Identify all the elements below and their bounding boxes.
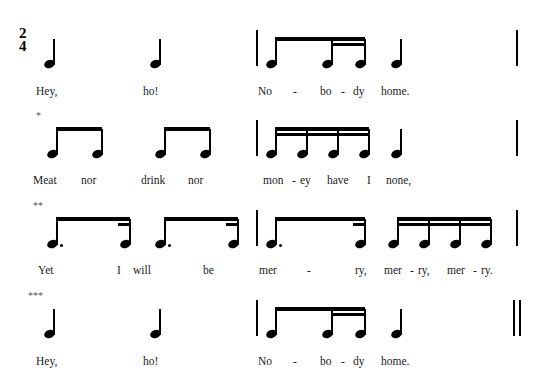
note-stem	[56, 219, 58, 245]
lyric-syllable: ho!	[143, 355, 158, 367]
beam-secondary-stub	[226, 223, 238, 226]
beam-primary	[275, 37, 365, 41]
note-stem	[275, 219, 277, 245]
sheet-music-page: 2 4 *	[0, 0, 551, 382]
time-signature: 2 4	[19, 27, 27, 53]
beam-secondary-stub	[353, 223, 365, 226]
lyric-syllable: Hey,	[36, 355, 57, 367]
barline-end	[516, 30, 518, 66]
lyric-syllable: dy	[353, 355, 365, 367]
lyric-syllable: ry,	[355, 264, 367, 276]
lyric-syllable: mer	[384, 264, 402, 276]
lyric-syllable: -	[292, 174, 296, 186]
lyric-syllable: home.	[381, 85, 409, 97]
lyric-syllable: I	[117, 264, 121, 276]
beam-secondary-stub	[118, 223, 130, 226]
lyric-syllable: -	[293, 355, 297, 367]
footnote-marker: **	[33, 200, 43, 211]
note-stem	[101, 129, 103, 155]
beam-primary	[164, 127, 210, 131]
lyric-syllable: -	[341, 85, 345, 97]
note-dotted-eighth	[47, 220, 67, 248]
note-stem	[159, 309, 161, 335]
augmentation-dot	[60, 244, 63, 247]
lyric-syllable: -	[341, 355, 345, 367]
beam-secondary	[397, 223, 491, 226]
lyric-syllable: ey	[300, 174, 311, 186]
beam-primary	[275, 127, 369, 131]
barline	[256, 120, 258, 156]
lyric-syllable: I	[367, 174, 371, 186]
lyric-syllable: -	[307, 264, 311, 276]
augmentation-dot	[168, 244, 171, 247]
note-stem	[400, 129, 402, 155]
note-stem	[275, 309, 277, 335]
lyric-syllable: No	[258, 355, 272, 367]
lyric-syllable: mon	[263, 174, 283, 186]
lyric-syllable: Yet	[38, 264, 53, 276]
lyric-syllable: will	[133, 264, 151, 276]
note-quarter	[391, 310, 407, 338]
note-stem	[209, 129, 211, 155]
note-eighth	[155, 130, 171, 158]
note-stem	[159, 39, 161, 65]
beam-primary	[56, 217, 130, 221]
lyric-syllable: mer	[447, 264, 465, 276]
lyric-syllable: none,	[386, 174, 411, 186]
lyric-syllable: home.	[381, 355, 409, 367]
lyric-syllable: -	[410, 264, 414, 276]
barline-final-thin-2	[519, 300, 521, 336]
beam-secondary	[331, 313, 365, 316]
lyric-syllable: nor	[188, 174, 203, 186]
lyric-syllable: Hey,	[36, 85, 57, 97]
beam-secondary	[331, 43, 365, 46]
lyric-syllable: ry,	[418, 264, 430, 276]
lyric-syllable: nor	[81, 174, 96, 186]
barline-end	[516, 120, 518, 156]
beam-primary	[164, 217, 238, 221]
note-dotted-eighth	[266, 220, 286, 248]
lyric-syllable: bo	[320, 355, 332, 367]
note-quarter	[391, 130, 407, 158]
note-quarter	[391, 40, 407, 68]
note-stem	[275, 39, 277, 65]
augmentation-dot	[279, 244, 282, 247]
beam-primary	[275, 217, 365, 221]
note-stem	[53, 309, 55, 335]
note-eighth	[266, 310, 282, 338]
beam-primary	[275, 307, 365, 311]
note-stem	[164, 129, 166, 155]
beam-primary	[56, 127, 102, 131]
barline-final-thin-1	[513, 300, 515, 336]
note-quarter	[150, 310, 166, 338]
note-eighth	[200, 130, 216, 158]
lyric-syllable: have	[327, 174, 349, 186]
lyric-syllable: Meat	[33, 174, 57, 186]
lyric-syllable: No	[258, 85, 272, 97]
time-signature-denominator: 4	[19, 40, 27, 53]
note-quarter	[44, 40, 60, 68]
lyric-syllable: -	[473, 264, 477, 276]
beam-primary	[397, 217, 491, 221]
note-stem	[400, 39, 402, 65]
lyric-syllable: bo	[320, 85, 332, 97]
barline-end	[516, 210, 518, 246]
note-eighth	[47, 130, 63, 158]
note-dotted-eighth	[155, 220, 175, 248]
note-stem	[400, 309, 402, 335]
footnote-marker: *	[36, 110, 41, 121]
lyric-syllable: mer	[259, 264, 277, 276]
lyric-syllable: be	[203, 264, 214, 276]
note-quarter	[150, 40, 166, 68]
note-quarter	[44, 310, 60, 338]
lyric-syllable: drink	[141, 174, 165, 186]
note-stem	[53, 39, 55, 65]
note-eighth	[266, 40, 282, 68]
note-stem	[164, 219, 166, 245]
barline	[256, 30, 258, 66]
beam-secondary	[275, 133, 369, 136]
lyric-syllable: dy	[353, 85, 365, 97]
note-stem	[56, 129, 58, 155]
lyric-syllable: -	[293, 85, 297, 97]
barline	[256, 300, 258, 336]
